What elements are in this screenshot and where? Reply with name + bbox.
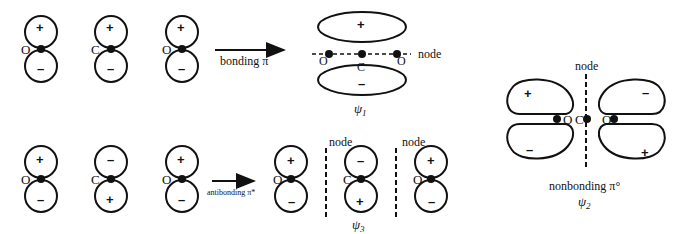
nonbonding-caption: nonbonding π°: [549, 179, 620, 193]
nucleus-dot: [178, 175, 186, 183]
phase-sign: –: [37, 192, 44, 207]
phase-sign: +: [36, 20, 44, 35]
phase-sign: +: [356, 194, 364, 209]
nucleus-dot: [610, 115, 618, 123]
node-label: node: [418, 47, 441, 61]
atom-label: C: [91, 42, 100, 57]
atom-label: O: [273, 172, 282, 187]
atom-label: O: [602, 112, 611, 127]
phase-sign: –: [357, 153, 364, 168]
nucleus-dot: [427, 175, 435, 183]
atom-label: O: [21, 42, 30, 57]
phase-sign: –: [178, 61, 185, 76]
mo-diagram: O + – C + – O + – bonding π + O C O node…: [0, 0, 681, 234]
phase-sign: +: [106, 192, 114, 207]
phase-sign: +: [641, 145, 649, 160]
atom-label: O: [21, 172, 30, 187]
lobe-lower-left: [507, 124, 573, 159]
phase-sign: +: [106, 20, 114, 35]
lobe-lower-right: [599, 124, 665, 159]
phase-sign: +: [287, 153, 295, 168]
lobe-upper-left: [507, 79, 573, 114]
antibonding-pi-label: antibonding π*: [207, 188, 255, 197]
atom-label: O: [413, 172, 422, 187]
phase-sign: +: [177, 20, 185, 35]
bonding-pi-label: bonding π: [220, 54, 268, 68]
phase-sign: +: [357, 17, 365, 32]
phase-sign: –: [358, 76, 365, 91]
nucleus-dot: [357, 175, 365, 183]
atom-label: O: [162, 42, 171, 57]
nucleus-dot: [107, 45, 115, 53]
psi3-label: ψ3: [352, 217, 365, 234]
node-label: node: [575, 59, 598, 73]
phase-sign: –: [178, 192, 185, 207]
atom-label: O: [397, 54, 406, 68]
atom-label: O: [319, 54, 328, 68]
atom-label: C: [575, 112, 584, 127]
atom-label: C: [343, 172, 352, 187]
nucleus-dot: [37, 175, 45, 183]
psi2-label: ψ2: [578, 194, 591, 211]
phase-sign: +: [427, 153, 435, 168]
nucleus-dot: [37, 45, 45, 53]
phase-sign: –: [107, 152, 114, 167]
nucleus-dot: [178, 45, 186, 53]
atom-label: O: [563, 112, 572, 127]
nucleus-dot: [583, 115, 591, 123]
phase-sign: –: [107, 61, 114, 76]
nucleus-dot: [287, 175, 295, 183]
nucleus-dot: [107, 175, 115, 183]
nucleus-dot: [553, 115, 561, 123]
phase-sign: +: [524, 86, 532, 101]
phase-sign: –: [642, 85, 649, 100]
nucleus-dot: [358, 50, 366, 58]
lobe-upper-right: [599, 79, 665, 114]
node-label: node: [329, 135, 352, 149]
phase-sign: +: [177, 152, 185, 167]
phase-sign: –: [526, 142, 533, 157]
atom-label: O: [162, 172, 171, 187]
phase-sign: –: [37, 61, 44, 76]
node-label: node: [402, 135, 425, 149]
atom-label: C: [357, 60, 365, 74]
psi1-label: ψ1: [354, 101, 367, 118]
atom-label: C: [91, 172, 100, 187]
phase-sign: +: [36, 152, 44, 167]
phase-sign: –: [428, 194, 435, 209]
phase-sign: –: [288, 194, 295, 209]
